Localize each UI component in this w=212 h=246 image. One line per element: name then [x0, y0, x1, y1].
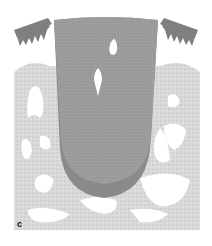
gingiva-right — [160, 18, 198, 46]
root-body — [54, 17, 158, 198]
gingiva-left — [14, 18, 52, 46]
diagram-canvas — [0, 0, 212, 246]
panel-label: c — [17, 219, 22, 229]
